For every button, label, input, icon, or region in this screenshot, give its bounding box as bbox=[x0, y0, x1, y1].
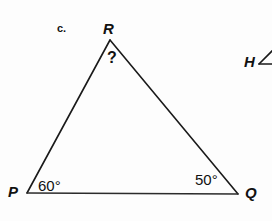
angle-symbol-icon bbox=[259, 47, 272, 64]
unknown-angle-at-R: ? bbox=[107, 50, 117, 66]
angle-measure-at-Q: 50° bbox=[195, 172, 218, 187]
vertex-label-H: H bbox=[244, 54, 255, 69]
figure-canvas: c. R P Q 60° 50° ? H bbox=[0, 0, 272, 221]
vertex-label-Q: Q bbox=[245, 185, 257, 200]
angle-measure-at-P: 60° bbox=[38, 178, 61, 193]
item-letter-label: c. bbox=[57, 23, 66, 34]
vertex-label-R: R bbox=[103, 21, 114, 36]
triangle-side-RQ bbox=[110, 40, 238, 194]
vertex-label-P: P bbox=[8, 184, 18, 199]
triangle-side-PR bbox=[27, 40, 110, 193]
